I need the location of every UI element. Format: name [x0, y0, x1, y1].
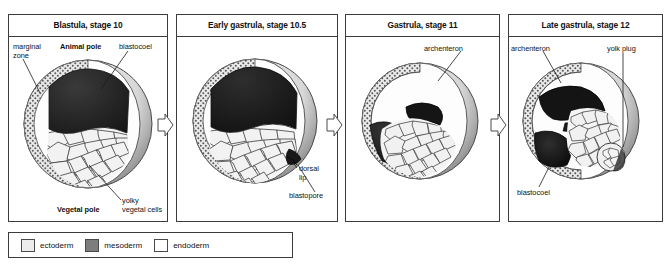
embryo-early-gastrula-illustration — [177, 37, 337, 222]
embryo-late-gastrula-illustration — [509, 37, 662, 222]
panel-body-gastrula: archenteron — [346, 37, 499, 222]
legend-label-ectoderm: ectoderm — [40, 241, 73, 250]
stage-arrow-2 — [325, 112, 343, 138]
panel-gastrula: Gastrula, stage 11 archenteron — [345, 14, 500, 222]
panel-body-early-gastrula: dorsal lip blastopore — [177, 37, 337, 222]
stage-arrow-1 — [156, 112, 174, 138]
mesoderm-swatch-icon — [85, 239, 99, 252]
panel-title-blastula: Blastula, stage 10 — [9, 15, 167, 37]
panel-title-late-gastrula: Late gastrula, stage 12 — [509, 15, 662, 37]
legend-item-ectoderm: ectoderm — [21, 239, 73, 252]
endoderm-swatch-icon — [154, 239, 168, 252]
legend-label-mesoderm: mesoderm — [104, 241, 142, 250]
ectoderm-swatch-icon — [21, 239, 35, 252]
panel-blastula: Blastula, stage 10 marginal zone Animal … — [8, 14, 168, 222]
stage-arrow-3 — [489, 112, 507, 138]
gastrulation-figure: Blastula, stage 10 marginal zone Animal … — [0, 0, 665, 266]
embryo-blastula-illustration — [9, 37, 167, 222]
legend-item-endoderm: endoderm — [154, 239, 209, 252]
panel-title-early-gastrula: Early gastrula, stage 10.5 — [177, 15, 337, 37]
legend-item-mesoderm: mesoderm — [85, 239, 142, 252]
panel-body-late-gastrula: archenteron yolk plug blastocoel — [509, 37, 662, 222]
panel-body-blastula: marginal zone Animal pole blastocoel Veg… — [9, 37, 167, 222]
panel-early-gastrula: Early gastrula, stage 10.5 dorsal lip bl… — [176, 14, 338, 222]
embryo-gastrula-illustration — [346, 37, 499, 222]
germ-layer-legend: ectoderm mesoderm endoderm — [8, 232, 293, 258]
legend-label-endoderm: endoderm — [173, 241, 209, 250]
panel-late-gastrula: Late gastrula, stage 12 archenteron yolk… — [508, 14, 663, 222]
panel-title-gastrula: Gastrula, stage 11 — [346, 15, 499, 37]
